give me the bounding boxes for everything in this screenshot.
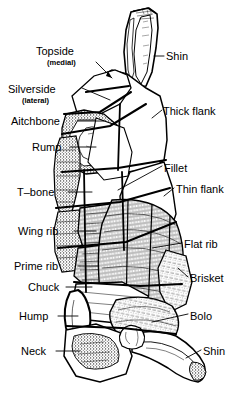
label-shin-fore: Shin [203,345,225,357]
carcass-illustration [0,0,246,396]
label-t-bone: T–bone [17,186,54,198]
label-flat-rib: Flat rib [184,238,218,250]
label-thin-flank: Thin flank [176,183,224,195]
label-topside: Topside [36,45,74,57]
label-shin-hind: Shin [166,50,188,62]
label-fillet: Fillet [164,162,187,174]
label-neck: Neck [21,345,46,357]
label-thick-flank: Thick flank [163,105,216,117]
label-prime-rib: Prime rib [14,260,58,272]
label-silverside-qualifier: (lateral) [22,96,49,105]
label-aitchbone: Aitchbone [11,115,60,127]
label-silverside: Silverside [8,83,56,95]
label-bolo: Bolo [190,310,212,322]
label-brisket: Brisket [190,272,224,284]
label-wing-rib: Wing rib [18,225,58,237]
beef-cuts-diagram: Topside (medial) Silverside (lateral) Ai… [0,0,246,396]
carcass-body [54,8,206,382]
label-topside-qualifier: (medial) [47,58,76,67]
label-hump: Hump [19,310,48,322]
label-rump: Rump [32,141,61,153]
label-chuck: Chuck [28,281,59,293]
